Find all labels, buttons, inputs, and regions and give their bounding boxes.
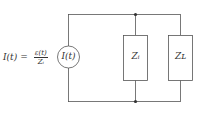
equation-fraction: ε(t) Zᵢ bbox=[34, 49, 48, 66]
bottom-junction-node bbox=[134, 100, 137, 103]
equation-lhs: I(t) bbox=[3, 52, 17, 62]
zi-label: Zᵢ bbox=[123, 51, 148, 61]
source-label: I(t) bbox=[57, 51, 80, 61]
zl-label: Zʟ bbox=[168, 51, 193, 61]
top-junction-node bbox=[134, 13, 137, 16]
equation-equals: = bbox=[20, 52, 28, 62]
equation-denominator: Zᵢ bbox=[38, 58, 44, 66]
current-equation: I(t) = ε(t) Zᵢ bbox=[3, 44, 48, 70]
equation-numerator: ε(t) bbox=[34, 49, 48, 58]
circuit-diagram: I(t) = ε(t) Zᵢ I(t) Zᵢ Zʟ bbox=[0, 0, 200, 114]
